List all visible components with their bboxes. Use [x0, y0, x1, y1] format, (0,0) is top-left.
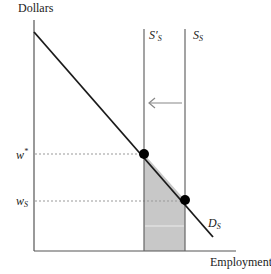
- labor-market-diagram: Dollars Employment S′S SS DS w* wS: [0, 0, 271, 274]
- equilibrium-point-new: [139, 149, 149, 159]
- x-axis-label: Employment: [210, 255, 271, 269]
- y-axis-label: Dollars: [18, 1, 54, 15]
- ws-label: wS: [16, 194, 28, 209]
- shift-left-arrow-icon: [149, 98, 182, 108]
- w-star-label: w*: [16, 147, 28, 162]
- equilibrium-point-original: [180, 195, 190, 205]
- supply-original-label: SS: [193, 28, 203, 43]
- shaded-area: [144, 154, 185, 251]
- demand-label: DS: [207, 216, 221, 231]
- supply-shifted-label: S′S: [149, 28, 162, 43]
- demand-line: [34, 32, 213, 237]
